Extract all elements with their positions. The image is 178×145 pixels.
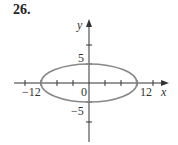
tick-label-x-neg12: −12 [22, 85, 41, 99]
tick-label-x-12: 12 [140, 85, 152, 99]
ellipse-graph: y x 5 −5 −12 12 0 [0, 0, 178, 145]
x-axis-label: x [160, 85, 167, 99]
y-axis-arrow-icon [86, 19, 92, 27]
tick-label-y-5: 5 [78, 51, 84, 65]
origin-label: 0 [81, 85, 87, 99]
y-axis-label: y [76, 18, 83, 32]
tick-label-y-neg5: −5 [71, 104, 84, 118]
